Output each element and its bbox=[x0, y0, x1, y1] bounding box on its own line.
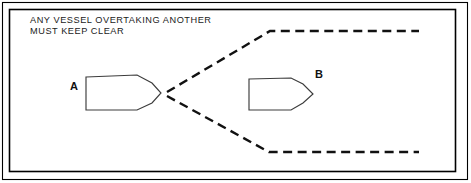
overtaking-rule-diagram: ANY VESSEL OVERTAKING ANOTHER MUST KEEP … bbox=[0, 0, 471, 183]
vessel-b-label: B bbox=[315, 68, 323, 80]
caption-line-2: MUST KEEP CLEAR bbox=[30, 26, 124, 36]
diagram-canvas: ANY VESSEL OVERTAKING ANOTHER MUST KEEP … bbox=[0, 0, 471, 183]
vessel-b-hull bbox=[249, 78, 313, 110]
caption-line-1: ANY VESSEL OVERTAKING ANOTHER bbox=[30, 15, 212, 25]
vessel-a-label: A bbox=[70, 80, 78, 92]
vessel-a-hull bbox=[86, 75, 161, 110]
